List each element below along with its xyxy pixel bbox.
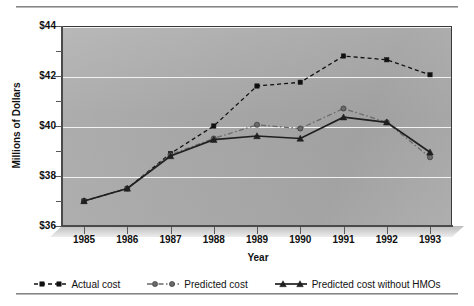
legend-item[interactable]: Predicted cost [146,278,247,290]
data-point-marker [212,124,216,128]
data-point-marker [427,155,432,160]
y-axis-tick-labels: $36$38$40$42$44 [16,12,56,222]
x-axis-tick [127,227,128,234]
chart-legend: Actual costPredicted costPredicted cost … [16,274,458,294]
x-axis-tick-label: 1992 [365,234,409,245]
legend-label: Actual cost [71,279,120,290]
x-axis-tick-label: 1989 [235,234,279,245]
data-point-marker [428,73,432,77]
series-plot [62,26,452,226]
series-line [84,56,430,201]
x-axis-tick-label: 1985 [62,234,106,245]
chart-area: $36$38$40$42$44 198519861987198819891990… [0,12,474,288]
x-axis-tick-label: 1993 [408,234,452,245]
data-point-marker [254,122,259,127]
legend-swatch-triangle-icon [274,278,308,290]
x-axis-tick [300,227,301,234]
legend-swatch-circle-icon [146,278,180,290]
x-axis-tick-label: 1991 [322,234,366,245]
legend-label: Predicted cost [184,279,247,290]
y-axis-tick-label: $36 [16,221,56,231]
x-axis-tick [171,227,172,234]
y-axis-tick-label: $38 [16,171,56,181]
x-axis-title: Year [62,252,454,263]
legend-swatch-square-icon [33,278,67,290]
figure: $36$38$40$42$44 198519861987198819891990… [0,0,474,306]
y-axis-tick-label: $44 [16,21,56,31]
x-axis-tick-label: 1986 [105,234,149,245]
series-line [84,117,430,201]
x-axis-tick-label: 1987 [149,234,193,245]
legend-item[interactable]: Actual cost [33,278,120,290]
y-axis-tick-label: $42 [16,71,56,81]
x-axis-tick [257,227,258,234]
x-axis-tick [84,227,85,234]
series-predicted-cost [81,106,432,204]
data-point-marker [255,84,259,88]
y-axis-title: Millions of Dollars [11,66,22,186]
x-axis-tick [344,227,345,234]
legend-label: Predicted cost without HMOs [312,279,441,290]
data-point-marker [298,126,303,131]
top-divider-rule [16,6,458,8]
x-axis-tick [387,227,388,234]
x-axis-tick [430,227,431,234]
y-axis-tick-label: $40 [16,121,56,131]
x-axis-tick-label: 1988 [192,234,236,245]
x-axis-tick [214,227,215,234]
data-point-marker [341,106,346,111]
x-axis-tick-labels: 198519861987198819891990199119921993 [62,234,454,250]
series-actual-cost [82,54,432,203]
x-axis-tick-label: 1990 [278,234,322,245]
data-point-marker [298,80,302,84]
data-point-marker [341,54,345,58]
data-point-marker [385,58,389,62]
legend-item[interactable]: Predicted cost without HMOs [274,278,441,290]
